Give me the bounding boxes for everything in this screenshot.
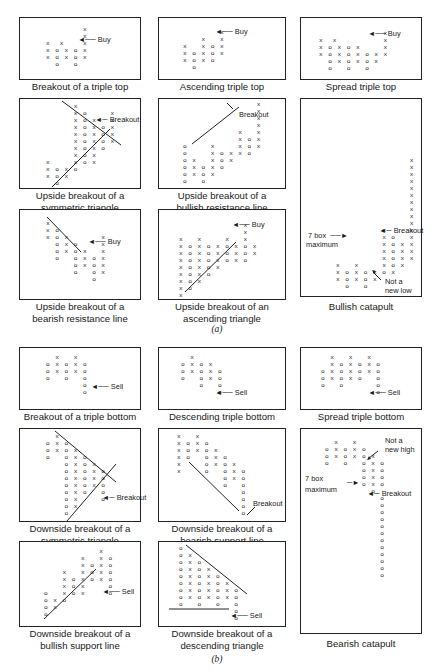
pf-chart: x x x x x x o x o x x o x o x o o (46, 26, 88, 68)
caption-upside-breakout-bearish-resistance: Upside breakout of abearish resistance l… (10, 301, 150, 324)
panel-upside-breakout-bearish-resistance: x x o x o x x o x o x o x o x x o o x o … (19, 209, 141, 300)
arrow-left-icon: ◄── (368, 29, 386, 38)
panel-bearish-catapult: x x o x o x o o x o x o x o o o x o o x … (300, 428, 422, 634)
sell-annotation: ◄── Sell (102, 588, 134, 596)
arrow-left-icon: ◄── (91, 382, 109, 391)
breakout-annotation: Breakout (239, 111, 269, 119)
panel-downside-breakout-symmetric-triangle: x o x o o x o x o o x o o x o x o x o x … (19, 428, 141, 522)
arrow-left-icon: ◄─ (367, 489, 380, 498)
arrow-left-icon: ◄─ (95, 115, 108, 124)
buy-annotation: ◄── Buy (78, 36, 111, 44)
caption-bearish-catapult: Bearish catapult (291, 638, 431, 650)
seven-box-annotation: 7 box maximum (305, 473, 337, 495)
panel-breakout-triple-top: x x x x x x o x o x x o x o x o o ◄── Bu… (19, 17, 141, 80)
arrow-left-icon: ◄── (88, 237, 106, 246)
panel-breakout-triple-bottom: x x o x o x o o x o x o o o o o o ◄── Se… (19, 347, 141, 410)
buy-annotation: ◄── Buy (88, 238, 121, 246)
arrow-left-icon: ◄── (230, 611, 248, 620)
panel-downside-breakout-bearish-support: x x x o x o x o x o x x o o x o x o x o … (158, 428, 286, 522)
caption-upside-breakout-ascending-triangle: Upside breakout of anascending triangle (152, 301, 292, 324)
panel-spread-triple-bottom: x x x x o x o x o o x o x o x o o x o x … (300, 347, 422, 410)
arrow-left-icon: ◄─ (102, 493, 115, 502)
sell-annotation: ◄── Sell (368, 389, 400, 397)
pf-chart: x x o x o x o o x o x o x o o o x o o x … (325, 439, 385, 579)
caption-descending-triple-bottom: Descending triple bottom (152, 411, 292, 423)
panel-ascending-triple-top: x x x x x o x x o x o x x o x o o ◄── Bu… (158, 17, 286, 80)
section-a-label: (a) (202, 324, 232, 334)
arrow-right-icon: ──► (330, 231, 348, 240)
breakout-annotation: ◄─ Breakout (379, 227, 423, 235)
caption-breakout-triple-bottom: Breakout of a triple bottom (10, 411, 150, 423)
panel-upside-breakout-symmetric-triangle: x x o x x o x x x o x o x x o x o x x o … (19, 98, 141, 189)
arrow-left-icon: ◄─ (379, 226, 392, 235)
pf-chart: x x x o x o x o x x o x o x o x o x o x … (44, 548, 113, 618)
buy-annotation: ◄── Buy (232, 221, 265, 229)
pf-chart: x x o x o x o o x o x o o o o o o (46, 354, 88, 396)
section-b-label: (b) (202, 654, 232, 664)
not-a-new-low-annotation: Not anew low (385, 277, 412, 295)
panel-upside-breakout-bullish-resistance: x x x x x x x o x o x x o x o x o x x o … (158, 98, 286, 189)
arrow-left-icon: ◄── (102, 587, 120, 596)
arrow-left-icon: ◄── (215, 388, 233, 397)
panel-downside-breakout-descending-triangle: o o x o x o o x o x o x o x o o x o x o … (158, 541, 286, 627)
seven-box-arrow: ─► (347, 479, 360, 487)
panel-spread-triple-top: x x x x x o x o x x x o x o x o x x o x … (300, 17, 422, 80)
caption-spread-triple-bottom: Spread triple bottom (291, 411, 431, 423)
breakout-annotation: ◄─ Breakout (367, 490, 411, 498)
arrow-left-icon: ◄── (78, 35, 96, 44)
sell-annotation: ◄── Sell (91, 383, 123, 391)
panel-descending-triple-bottom: x o x o x o x o x o o o x o o o o ◄── Se… (158, 347, 286, 410)
breakout-annotation: Breakout (253, 500, 283, 508)
panel-upside-breakout-ascending-triangle: x x x x x x x o x o x o x o x x o x o x … (158, 209, 286, 300)
caption-bullish-catapult: Bullish catapult (291, 301, 431, 313)
not-a-new-high-annotation: Not anew high (385, 436, 415, 454)
buy-annotation: ◄── Buy (368, 30, 401, 38)
caption-spread-triple-top: Spread triple top (291, 81, 431, 93)
pf-chart: x o x o o x o x o o x o o x o x o x o x … (46, 433, 106, 517)
seven-box-annotation: 7 box ──► maximum (306, 231, 348, 249)
panel-downside-breakout-bullish-support: x x x o x o x o x x o x o x o x o x o x … (19, 541, 141, 627)
caption-downside-breakout-descending-triangle: Downside breakout of adescending triangl… (152, 628, 292, 651)
sell-annotation: ◄── Sell (230, 612, 262, 620)
arrow-left-icon: ◄── (232, 220, 250, 229)
caption-downside-breakout-bullish-support: Downside breakout of abullish support li… (10, 628, 150, 651)
caption-ascending-triple-top: Ascending triple top (152, 81, 292, 93)
pf-chart: x x x x x x x o x o x o x o x x o x o x … (179, 222, 257, 299)
breakout-annotation: ◄─ Breakout (102, 494, 146, 502)
sell-annotation: ◄── Sell (215, 389, 247, 397)
buy-annotation: ◄── Buy (215, 28, 248, 36)
pf-chart: x x x o x o x o x o x x o o x o x o x o … (177, 433, 246, 517)
pf-chart: x x x x x x x x x x x x x o x (336, 157, 414, 290)
arrow-left-icon: ◄── (368, 388, 386, 397)
caption-breakout-triple-top: Breakout of a triple top (10, 81, 150, 93)
arrow-left-icon: ◄── (215, 27, 233, 36)
panel-bullish-catapult: x x x x x x x x x x x x x o x (300, 98, 422, 297)
breakout-annotation: ◄─ Breakout (95, 116, 139, 124)
pf-chart: x x o x o x x o x o x o x o x x o o x o … (46, 220, 106, 283)
arrow-right-icon: ─► (347, 478, 360, 487)
